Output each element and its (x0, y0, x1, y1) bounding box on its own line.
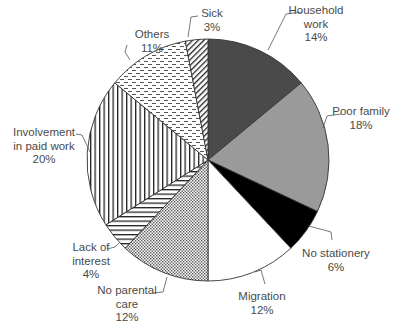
leader-line (188, 16, 198, 37)
slice-percent: 11% (141, 42, 163, 54)
slice-label: Migration12% (238, 290, 285, 316)
slice-name: Others (135, 28, 170, 40)
slice-name: Migration (238, 290, 285, 302)
slice-percent: 6% (328, 261, 345, 273)
slice-percent: 4% (83, 268, 100, 280)
leader-line (309, 226, 332, 240)
slice-name: interest (72, 255, 111, 267)
slice-name: in paid work (13, 140, 75, 152)
slice-percent: 14% (304, 31, 327, 43)
slice-label: Householdwork14% (289, 4, 344, 43)
slice-name: No stationery (302, 247, 370, 259)
pie-chart: Householdwork14%Poor family18%No station… (0, 0, 410, 332)
slice-percent: 20% (32, 153, 55, 165)
slice-name: work (303, 18, 329, 30)
slice-name: Household (289, 4, 344, 16)
slice-label: No parentalcare12% (97, 284, 156, 323)
slice-name: No parental (97, 284, 156, 296)
slice-percent: 12% (115, 311, 138, 323)
leader-line (255, 270, 265, 284)
leader-line (268, 12, 302, 50)
slice-name: care (116, 298, 138, 310)
slice-percent: 3% (204, 21, 221, 33)
leader-line (125, 45, 130, 60)
slice-name: Involvement (13, 126, 76, 138)
slice-name: Lack of (72, 241, 110, 253)
slice-label: Lack ofinterest4% (72, 241, 111, 280)
slice-label: Sick3% (201, 7, 223, 33)
slice-label: Involvementin paid work20% (13, 126, 76, 165)
slice-label: Poor family18% (332, 105, 390, 131)
slice-percent: 12% (250, 304, 273, 316)
slice-label: No stationery6% (302, 247, 370, 273)
slice-name: Poor family (332, 105, 390, 117)
slice-name: Sick (201, 7, 223, 19)
slice-percent: 18% (349, 119, 372, 131)
pie-slices (87, 39, 329, 281)
